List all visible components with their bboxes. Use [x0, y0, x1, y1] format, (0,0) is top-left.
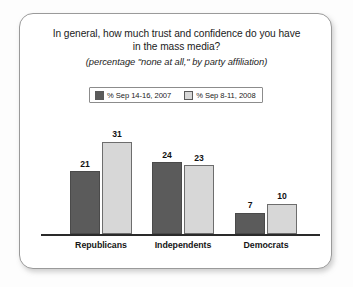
bar-value-republicans-2007: 21: [80, 159, 89, 169]
chart-card: In general, how much trust and confidenc…: [19, 13, 332, 269]
bar-value-independents-2007: 24: [162, 150, 171, 160]
chart-legend: % Sep 14-16, 2007 % Sep 8-11, 2008: [89, 87, 263, 103]
bar-rect-independents-2007: [152, 162, 182, 233]
legend-label-series-1: % Sep 14-16, 2007: [107, 91, 171, 100]
bar-independents-2008: 23: [184, 153, 214, 234]
legend-swatch-icon-series-2: [184, 91, 193, 100]
bar-value-democrats-2007: 7: [248, 200, 253, 210]
bar-republicans-2007: 21: [70, 159, 100, 234]
bar-rect-democrats-2008: [267, 204, 297, 234]
bar-rect-democrats-2007: [235, 213, 265, 234]
bar-rect-independents-2008: [184, 165, 214, 233]
category-label-independents: Independents: [141, 240, 225, 250]
page-background: In general, how much trust and confidenc…: [0, 0, 353, 287]
chart-title-line-2: in the mass media?: [30, 40, 323, 53]
x-axis-baseline: [41, 234, 320, 236]
bar-value-democrats-2008: 10: [277, 191, 286, 201]
bar-rect-republicans-2007: [70, 171, 100, 233]
legend-swatch-icon-series-1: [95, 91, 104, 100]
legend-item-series-1: % Sep 14-16, 2007: [95, 91, 171, 100]
bar-rect-republicans-2008: [102, 142, 132, 234]
category-label-democrats: Democrats: [224, 240, 308, 250]
bar-democrats-2007: 7: [235, 200, 265, 233]
bar-group-democrats: 7 10: [224, 116, 308, 234]
chart-title-line-1: In general, how much trust and confidenc…: [30, 27, 323, 40]
bar-group-independents: 24 23: [141, 116, 225, 234]
chart-title-block: In general, how much trust and confidenc…: [30, 27, 323, 68]
legend-item-series-2: % Sep 8-11, 2008: [184, 91, 255, 100]
chart-subtitle: (percentage "none at all," by party affi…: [30, 55, 323, 68]
bar-group-republicans: 21 31: [59, 116, 143, 234]
bar-value-independents-2008: 23: [194, 153, 203, 163]
chart-plot-area: 21 31 24 23: [41, 114, 320, 236]
bar-independents-2007: 24: [152, 150, 182, 234]
bar-republicans-2008: 31: [102, 129, 132, 234]
legend-label-series-2: % Sep 8-11, 2008: [196, 91, 255, 100]
bar-value-republicans-2008: 31: [112, 129, 121, 139]
category-label-republicans: Republicans: [59, 240, 143, 250]
bar-democrats-2008: 10: [267, 191, 297, 233]
